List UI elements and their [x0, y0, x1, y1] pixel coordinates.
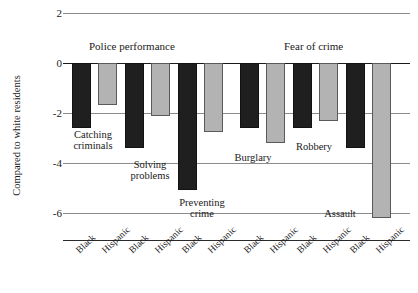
- annotation-robbery: Robbery: [284, 141, 344, 152]
- annotation-solving-problems: Solving problems: [112, 159, 188, 181]
- annotation-catching-line1: Catching: [74, 129, 112, 140]
- bar-black-burglary: [240, 63, 259, 128]
- bar-black-assault: [346, 63, 365, 148]
- annotation-catching-line2: criminals: [58, 140, 128, 151]
- annotation-assault: Assault: [312, 208, 368, 219]
- annotation-preventing-line2: crime: [160, 208, 244, 219]
- bar-hispanic-assault: [372, 63, 391, 218]
- section-title-fear-of-crime: Fear of crime: [284, 40, 343, 52]
- annotation-catching-criminals: Catching criminals: [58, 129, 128, 151]
- gridline-2: [63, 13, 410, 14]
- annotation-burglary: Burglary: [222, 152, 284, 163]
- annotation-preventing-line1: Preventing: [179, 197, 225, 208]
- annotation-preventing-crime: Preventing crime: [160, 197, 244, 219]
- bar-hispanic-solving-problems: [151, 63, 170, 116]
- bar-hispanic-burglary: [266, 63, 285, 143]
- bar-hispanic-robbery: [319, 63, 338, 121]
- section-title-police-performance: Police performance: [89, 40, 175, 52]
- chart-figure: Compared to white residents 2 0 -2 -4 -6: [0, 0, 418, 293]
- annotation-solving-line2: problems: [112, 170, 188, 181]
- bar-hispanic-preventing-crime: [204, 63, 223, 132]
- bar-black-robbery: [293, 63, 312, 128]
- annotation-solving-line1: Solving: [134, 159, 167, 170]
- bar-hispanic-catching-criminals: [98, 63, 117, 105]
- bar-black-catching-criminals: [72, 63, 91, 128]
